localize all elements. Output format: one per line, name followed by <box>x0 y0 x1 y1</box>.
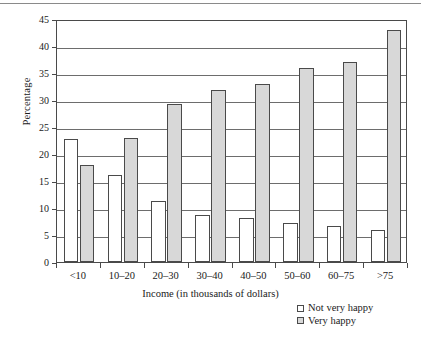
x-tick-mark <box>319 263 320 268</box>
x-tick-mark <box>407 263 408 268</box>
page-top-rule <box>0 3 421 4</box>
x-tick-mark <box>100 263 101 268</box>
y-tick-label: 40 <box>23 42 49 52</box>
legend: Not very happy Very happy <box>297 302 373 327</box>
y-tick-label: 20 <box>23 150 49 160</box>
bar-very-happy <box>211 90 226 262</box>
x-tick-mark <box>232 263 233 268</box>
bar-not-very-happy <box>283 223 298 262</box>
bar-not-very-happy <box>151 201 166 262</box>
x-tick-mark <box>56 263 57 268</box>
bar-not-very-happy <box>239 218 254 262</box>
legend-item-very-happy: Very happy <box>297 315 373 328</box>
bar-very-happy <box>124 138 139 262</box>
bar-very-happy <box>343 62 358 262</box>
bar-not-very-happy <box>195 215 210 262</box>
bar-very-happy <box>387 30 402 262</box>
bar-series-container <box>57 21 406 262</box>
plot-area <box>56 20 407 263</box>
bar-not-very-happy <box>327 226 342 262</box>
y-tick-label: 30 <box>23 96 49 106</box>
y-tick-label: 45 <box>23 15 49 25</box>
bar-very-happy <box>299 68 314 262</box>
legend-label-not-very-happy: Not very happy <box>308 302 373 315</box>
legend-label-very-happy: Very happy <box>308 315 356 328</box>
x-axis-title: Income (in thousands of dollars) <box>0 288 421 299</box>
bar-very-happy <box>255 84 270 262</box>
bar-not-very-happy <box>371 230 386 262</box>
y-tick-label: 15 <box>23 177 49 187</box>
legend-swatch-icon-not-very-happy <box>297 305 304 312</box>
figure: Percentage 051015202530354045 <1010–2020… <box>0 0 421 341</box>
y-tick-label: 25 <box>23 123 49 133</box>
x-tick-mark <box>188 263 189 268</box>
x-tick-mark <box>144 263 145 268</box>
x-tick-mark <box>275 263 276 268</box>
x-tick-label: >75 <box>359 270 411 282</box>
bar-very-happy <box>167 104 182 262</box>
bar-very-happy <box>80 165 95 262</box>
legend-item-not-very-happy: Not very happy <box>297 302 373 315</box>
legend-swatch-icon-very-happy <box>297 317 304 324</box>
bar-not-very-happy <box>108 175 123 263</box>
y-tick-label: 10 <box>23 204 49 214</box>
y-tick-label: 5 <box>23 231 49 241</box>
y-tick-label: 35 <box>23 69 49 79</box>
x-tick-mark <box>363 263 364 268</box>
bar-not-very-happy <box>64 139 79 262</box>
y-tick-label: 0 <box>23 258 49 268</box>
